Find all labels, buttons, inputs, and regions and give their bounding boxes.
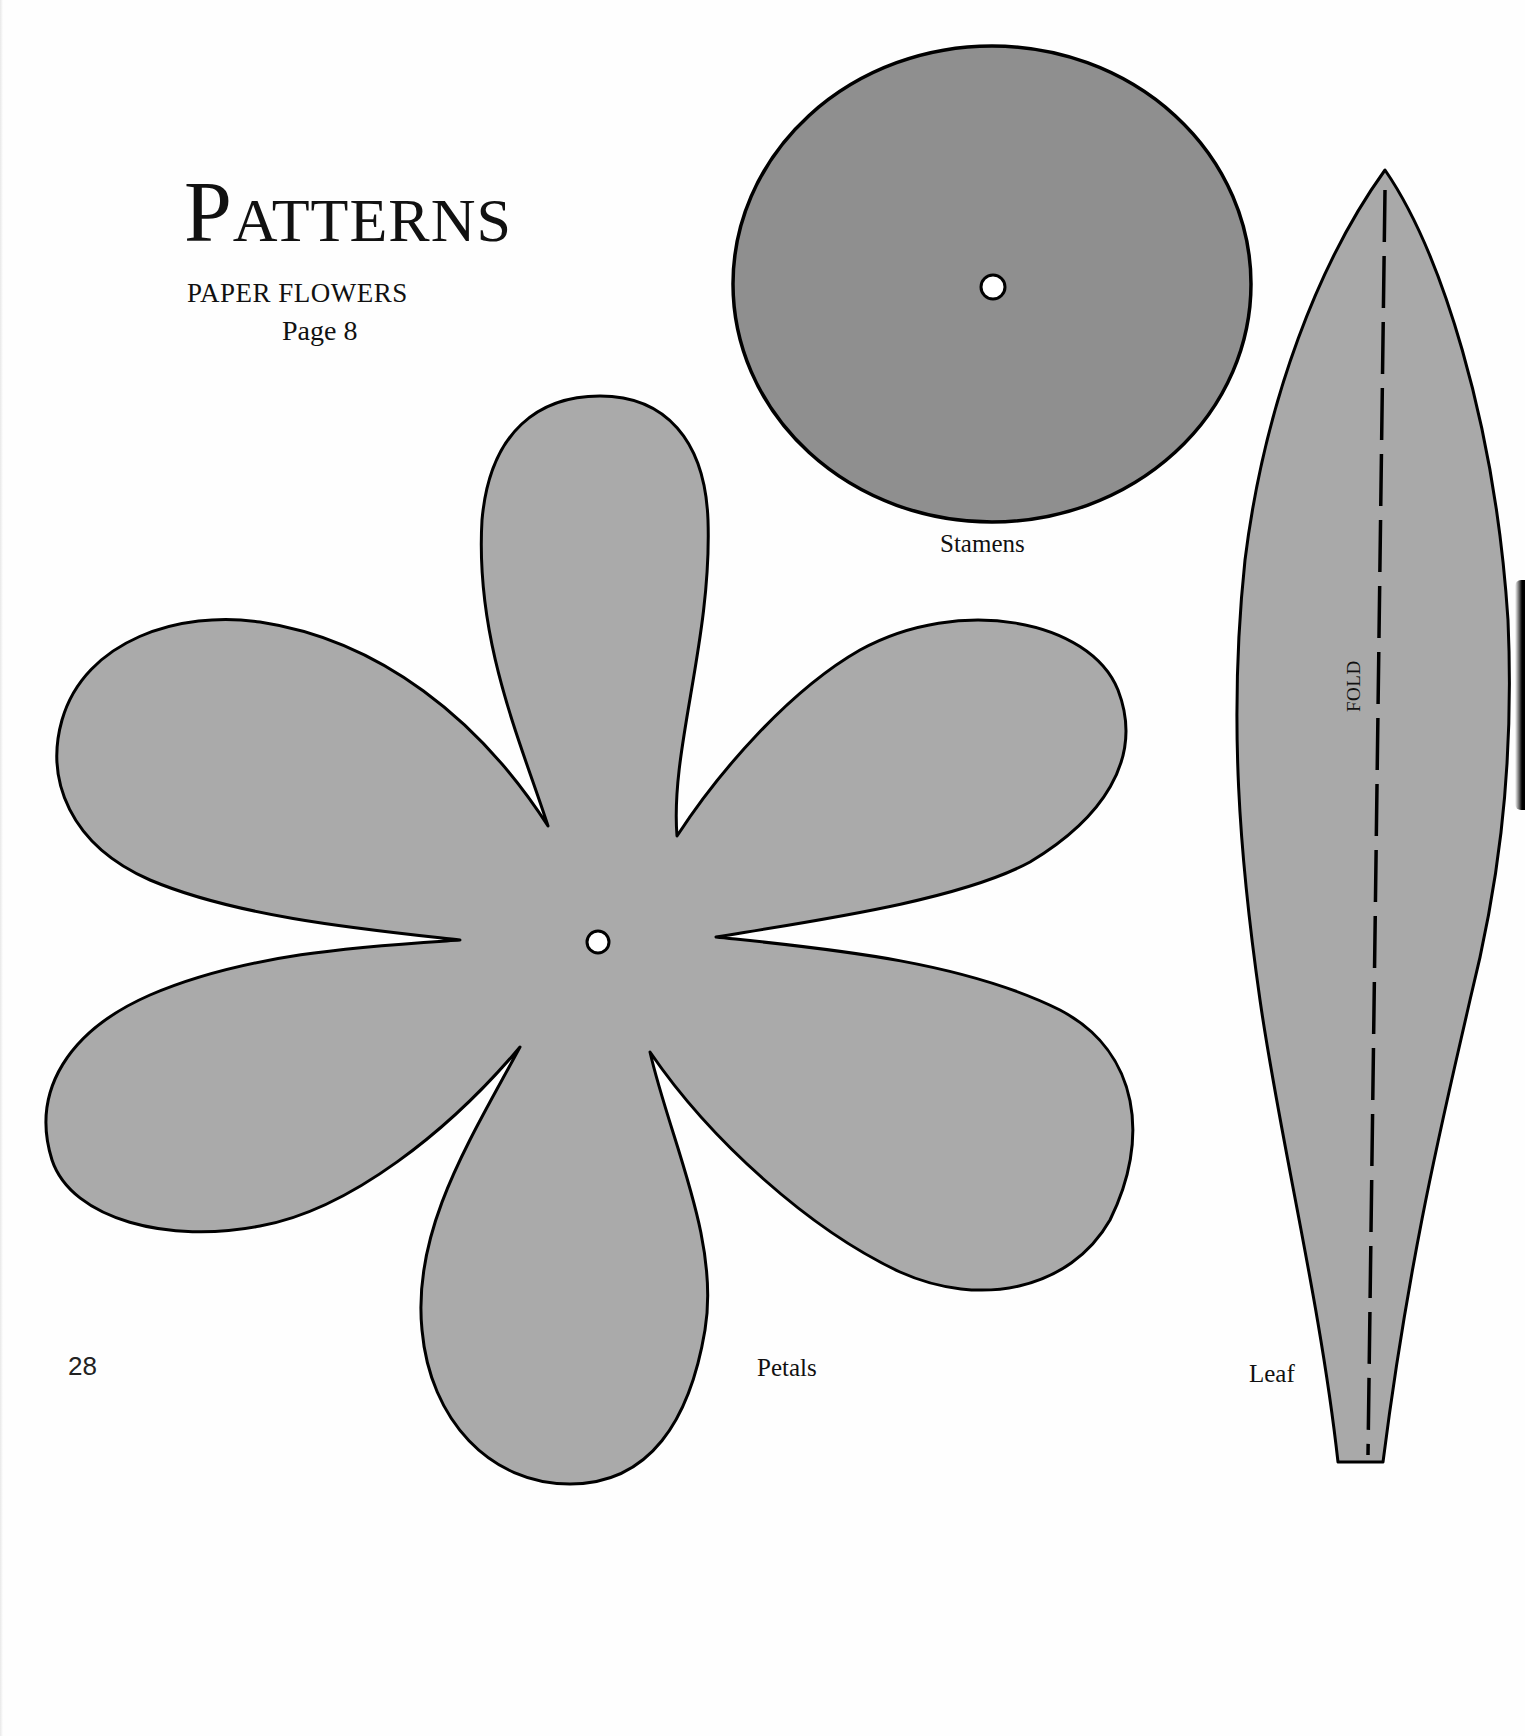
project-name: PAPER FLOWERS xyxy=(187,278,408,308)
petals-pattern xyxy=(46,396,1133,1484)
title-rest: ATTERNS xyxy=(233,186,512,254)
page-reference: Page 8 xyxy=(282,316,357,346)
fold-label: FOLD xyxy=(1344,660,1364,712)
stamens-center-hole xyxy=(981,275,1005,299)
petals-label: Petals xyxy=(757,1354,817,1382)
stamens-pattern xyxy=(733,46,1251,522)
book-binding-shadow xyxy=(1515,580,1525,810)
title-initial: P xyxy=(184,164,233,260)
page-number: 28 xyxy=(68,1352,97,1380)
stamens-label: Stamens xyxy=(940,530,1025,558)
page-title: PATTERNS xyxy=(184,170,512,262)
leaf-pattern xyxy=(1237,170,1510,1462)
petals-center-hole xyxy=(587,931,609,953)
pattern-page: PATTERNS PAPER FLOWERS Page 8 Stamens Pe… xyxy=(0,0,1525,1736)
leaf-label: Leaf xyxy=(1249,1360,1295,1388)
